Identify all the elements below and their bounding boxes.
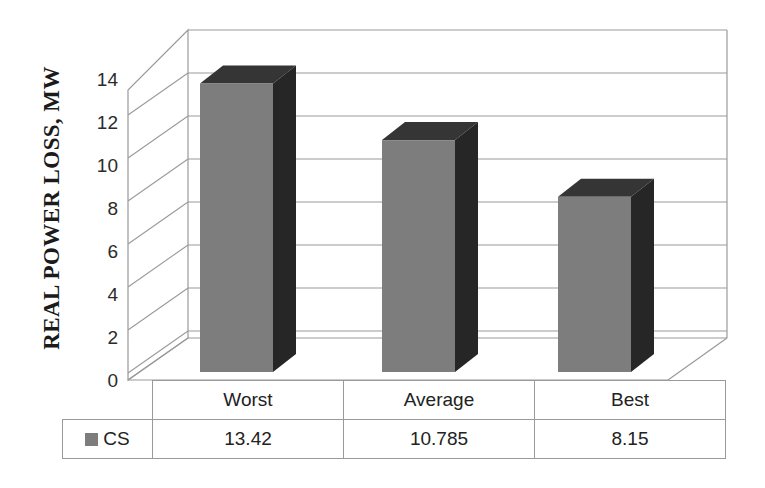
data-table-container: Worst Average Best CS 13.42 10.785 8.15	[62, 380, 726, 459]
table-header-average: Average	[344, 381, 535, 420]
table-cell-best: 8.15	[535, 420, 726, 459]
bar-side-face-average	[455, 122, 478, 372]
bar-best	[558, 197, 631, 372]
gridline-connector-6	[128, 245, 188, 287]
bar-side-face-best	[631, 179, 654, 372]
gridline-connector-10	[128, 159, 188, 201]
table-header-best: Best	[535, 381, 726, 420]
gridline-connector-14	[128, 73, 188, 115]
floor-right-edge	[668, 338, 727, 380]
legend-entry-cs: CS	[63, 420, 153, 459]
legend-swatch-icon	[85, 433, 98, 446]
plot-area	[0, 0, 765, 400]
chart-figure: REAL POWER LOSS, MW 14 12 10 8 6 4 2 0	[0, 0, 765, 488]
gridline-connector-12	[128, 116, 188, 158]
gridline-connector-0	[128, 338, 188, 380]
table-row: CS 13.42 10.785 8.15	[63, 420, 726, 459]
table-cell-worst: 13.42	[153, 420, 344, 459]
bar-series-cs	[200, 65, 654, 372]
gridline-connector-8	[128, 202, 188, 244]
bar-side-face-worst	[273, 65, 296, 372]
bar-average	[382, 140, 455, 372]
bar-worst	[200, 83, 273, 372]
legend-label-cs: CS	[103, 428, 129, 449]
data-table: Worst Average Best CS 13.42 10.785 8.15	[62, 380, 726, 459]
table-header-row: Worst Average Best	[63, 381, 726, 420]
gridline-connector-2	[128, 331, 188, 373]
left-wall	[128, 30, 188, 380]
table-header-worst: Worst	[153, 381, 344, 420]
gridline-connector-4	[128, 288, 188, 330]
table-cell-average: 10.785	[344, 420, 535, 459]
table-corner-blank	[63, 381, 153, 420]
